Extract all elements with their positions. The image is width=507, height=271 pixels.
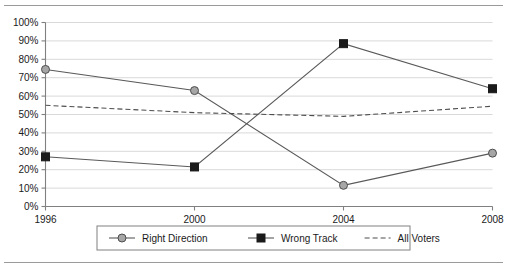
x-tick-label-1996: 1996 (34, 214, 57, 225)
legend-item-wrong-track[interactable]: Wrong Track (248, 233, 338, 244)
x-tick-label-2004: 2004 (332, 214, 355, 225)
figure-container: 0%10%20%30%40%50%60%70%80%90%100% 199620… (0, 0, 507, 271)
y-tick-label-20: 20% (18, 164, 38, 175)
y-tick-label-0: 0% (24, 201, 39, 212)
y-tick-label-70: 70% (18, 72, 38, 83)
chart-legend: Right DirectionWrong TrackAll Voters (97, 226, 440, 250)
y-axis-tick-marks (42, 23, 46, 207)
y-tick-label-40: 40% (18, 127, 38, 138)
bottom-divider-rule (4, 262, 503, 263)
marker-circle-1996 (42, 65, 50, 73)
y-tick-label-100: 100% (13, 17, 39, 28)
y-tick-label-80: 80% (18, 54, 38, 65)
y-tick-label-50: 50% (18, 109, 38, 120)
marker-circle-2000 (191, 87, 199, 95)
y-tick-label-90: 90% (18, 35, 38, 46)
x-axis-tick-labels: 1996200020042008 (34, 214, 504, 225)
x-axis-tick-marks (46, 207, 493, 211)
marker-square-2008 (489, 85, 497, 93)
x-tick-label-2008: 2008 (481, 214, 504, 225)
legend-label-all-voters: All Voters (398, 233, 440, 244)
square-marker (257, 234, 265, 242)
marker-square-1996 (42, 153, 50, 161)
y-tick-label-30: 30% (18, 146, 38, 157)
y-tick-label-10: 10% (18, 183, 38, 194)
gridlines-group (46, 23, 493, 207)
marker-circle-2008 (489, 149, 497, 157)
marker-square-2004 (340, 40, 348, 48)
marker-circle-2004 (340, 181, 348, 189)
legend-item-right-direction[interactable]: Right Direction (109, 233, 208, 244)
series-line-right-direction (46, 69, 493, 185)
x-tick-label-2000: 2000 (183, 214, 206, 225)
chart-svg: 0%10%20%30%40%50%60%70%80%90%100% 199620… (0, 10, 507, 260)
line-chart: 0%10%20%30%40%50%60%70%80%90%100% 199620… (0, 10, 507, 260)
legend-label-wrong-track: Wrong Track (281, 233, 338, 244)
y-tick-label-60: 60% (18, 91, 38, 102)
top-divider-rule (4, 5, 503, 6)
series-line-wrong-track (46, 44, 493, 167)
circle-marker (118, 234, 126, 242)
y-axis-tick-labels: 0%10%20%30%40%50%60%70%80%90%100% (13, 17, 39, 212)
marker-square-2000 (191, 163, 199, 171)
legend-label-right-direction: Right Direction (142, 233, 208, 244)
